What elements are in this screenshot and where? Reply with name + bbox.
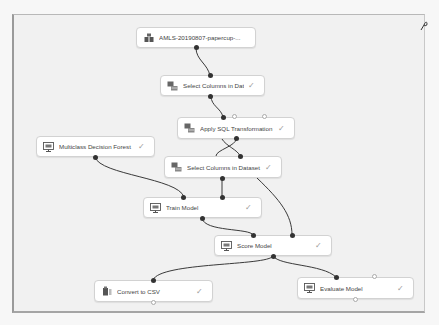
node-train-model[interactable]: Train Model ✓ <box>143 197 262 218</box>
node-label: Select Columns in Dataset <box>183 82 244 89</box>
select-columns-icon <box>167 81 178 91</box>
input-port-3[interactable] <box>262 114 267 119</box>
input-port[interactable] <box>221 115 226 120</box>
check-icon: ✓ <box>192 287 206 296</box>
model-icon <box>304 283 315 293</box>
node-label: Score Model <box>237 242 311 249</box>
node-label: Convert to CSV <box>117 288 192 295</box>
node-multiclass-decision-forest[interactable]: Multiclass Decision Forest ✓ <box>36 136 155 157</box>
output-port[interactable] <box>208 94 213 99</box>
input-port-2[interactable] <box>372 274 377 279</box>
check-icon: ✓ <box>311 241 325 250</box>
node-convert-to-csv[interactable]: Convert to CSV ✓ <box>94 280 213 302</box>
input-port[interactable] <box>238 154 243 159</box>
check-icon: ✓ <box>261 163 275 172</box>
check-icon: ✓ <box>393 284 407 293</box>
model-icon <box>43 142 54 152</box>
node-label: Select Columns in Dataset <box>187 164 261 171</box>
node-select-columns-1[interactable]: Select Columns in Dataset ✓ <box>160 75 265 96</box>
input-port[interactable] <box>251 233 256 238</box>
node-label: Evaluate Model <box>320 285 393 292</box>
output-port[interactable] <box>93 155 98 160</box>
input-port[interactable] <box>334 275 339 280</box>
output-port[interactable] <box>151 300 156 305</box>
check-icon: ✓ <box>274 124 288 133</box>
node-label: Apply SQL Transformation <box>200 125 274 132</box>
node-label: Train Model <box>166 204 241 211</box>
input-port-2[interactable] <box>290 233 295 238</box>
node-select-columns-2[interactable]: Select Columns in Dataset ✓ <box>164 156 282 178</box>
input-port[interactable] <box>151 278 156 283</box>
output-port[interactable] <box>234 136 239 141</box>
node-label: AMLS-20190807-papercup-... <box>159 34 255 41</box>
convert-csv-icon <box>101 286 112 296</box>
output-port[interactable] <box>194 45 199 50</box>
output-port[interactable] <box>271 254 276 259</box>
check-icon: ✓ <box>244 81 258 90</box>
check-icon: ✓ <box>241 203 255 212</box>
select-columns-icon <box>171 162 182 172</box>
input-port-2[interactable] <box>220 195 225 200</box>
node-score-model[interactable]: Score Model ✓ <box>214 235 332 256</box>
check-icon: ✓ <box>134 142 148 151</box>
input-port-2[interactable] <box>232 114 237 119</box>
output-port[interactable] <box>353 297 358 302</box>
cursor-icon <box>419 19 429 31</box>
model-icon <box>150 203 161 213</box>
node-label: Multiclass Decision Forest <box>59 143 134 150</box>
dataset-icon <box>143 33 154 43</box>
output-port[interactable] <box>220 176 225 181</box>
input-port[interactable] <box>208 73 213 78</box>
input-port[interactable] <box>181 195 186 200</box>
model-icon <box>221 241 232 251</box>
sql-transformation-icon <box>184 123 195 133</box>
output-port[interactable] <box>200 216 205 221</box>
node-evaluate-model[interactable]: Evaluate Model ✓ <box>297 277 414 299</box>
